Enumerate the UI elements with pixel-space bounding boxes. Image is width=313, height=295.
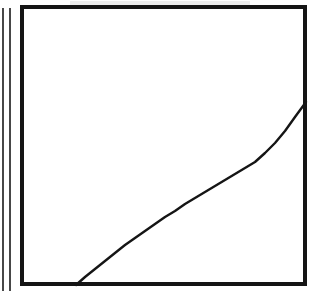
figure-root [0, 0, 313, 295]
scan-speckle-band [70, 1, 250, 5]
figure-canvas [0, 0, 313, 295]
plot-frame [22, 7, 305, 284]
